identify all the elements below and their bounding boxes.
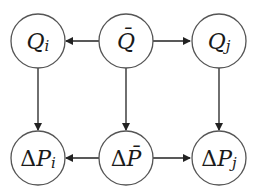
node-delta-p-bar: ΔP̄ — [99, 131, 153, 185]
node-q-j: Qj — [192, 14, 246, 68]
node-delta-p-i: ΔPi — [11, 131, 65, 185]
node-q-i: Qi — [11, 14, 65, 68]
node-label: ΔP̄ — [111, 144, 143, 170]
node-label: ΔPj — [201, 146, 237, 173]
node-q-bar: Q̄ — [99, 14, 153, 68]
node-label: ΔPi — [20, 146, 56, 173]
causal-diagram: Qi Q̄ Qj ΔPi ΔP̄ ΔPj — [0, 0, 253, 192]
node-delta-p-j: ΔPj — [192, 131, 246, 185]
node-label: Q̄ — [117, 27, 135, 53]
